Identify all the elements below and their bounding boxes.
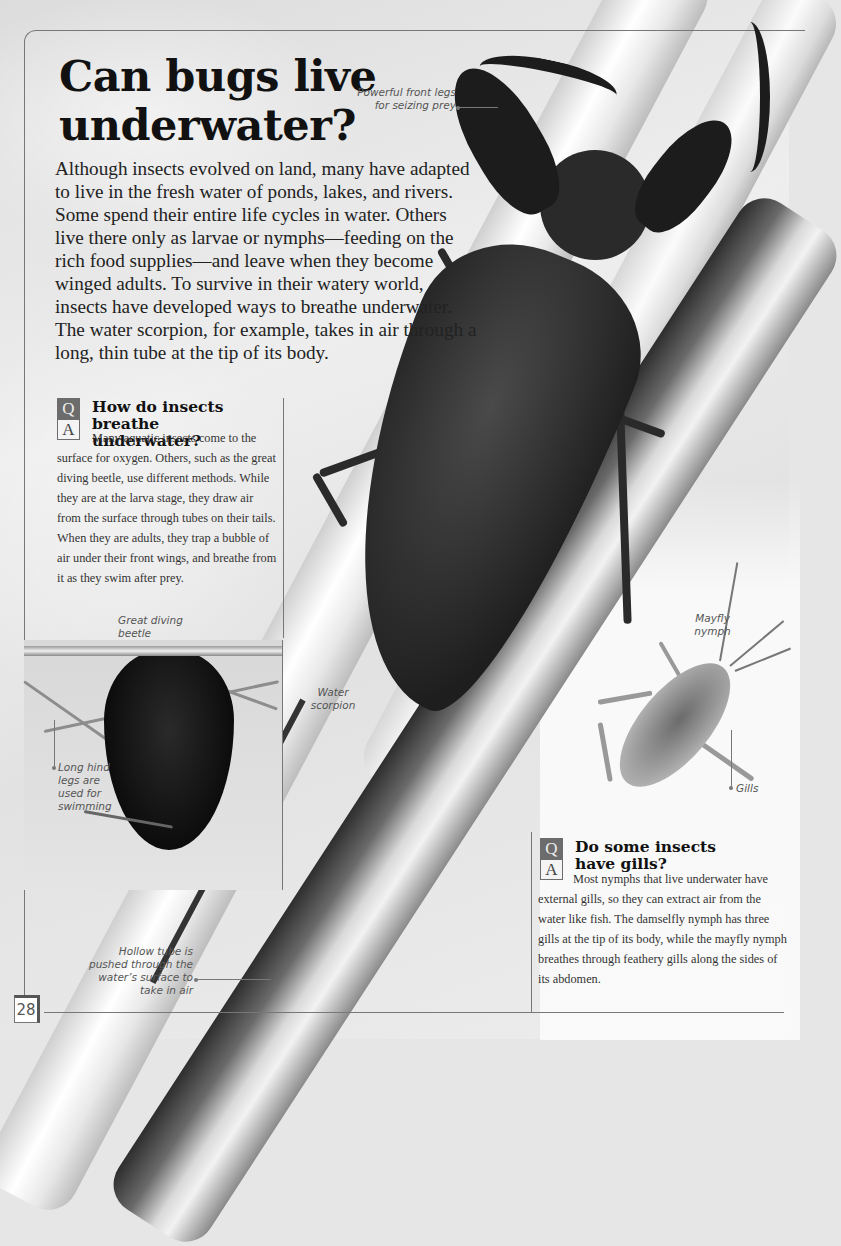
qa-divider xyxy=(531,832,532,1012)
pointer-dot xyxy=(52,766,56,770)
question-badge: Q xyxy=(57,398,80,419)
caption-mayfly-nymph: Mayfly nymph xyxy=(690,612,735,638)
qa-answer: Many aquatic insects come to the surface… xyxy=(57,428,279,588)
qa-question: Do some insects have gills? xyxy=(575,838,735,872)
page-number: 28 xyxy=(14,995,40,1023)
question-badge: Q xyxy=(540,838,563,859)
caption-pointer-line xyxy=(458,107,498,108)
caption-gills: Gills xyxy=(736,782,776,795)
water-surface xyxy=(24,646,282,656)
caption-pointer-line xyxy=(196,979,271,980)
caption-hollow-tube: Hollow tube is pushed through the water’… xyxy=(80,945,193,997)
scorpion-claw xyxy=(730,22,770,172)
pointer-dot xyxy=(729,786,733,790)
qa-answer: Most nymphs that live underwater have ex… xyxy=(538,869,788,989)
intro-paragraph: Although insects evolved on land, many h… xyxy=(55,157,480,364)
caption-water-scorpion: Water scorpion xyxy=(308,686,358,712)
caption-pointer-line xyxy=(731,730,732,786)
page-bottom-rule xyxy=(44,1012,784,1013)
caption-front-legs: Powerful front legs for seizing prey xyxy=(350,86,456,112)
qa-divider xyxy=(283,398,284,638)
page-title: Can bugs live underwater? xyxy=(59,52,379,150)
caption-hind-legs: Long hind legs are used for swimming xyxy=(58,761,128,813)
caption-pointer-line xyxy=(54,720,55,768)
caption-great-diving-beetle: Great diving beetle xyxy=(118,614,218,640)
